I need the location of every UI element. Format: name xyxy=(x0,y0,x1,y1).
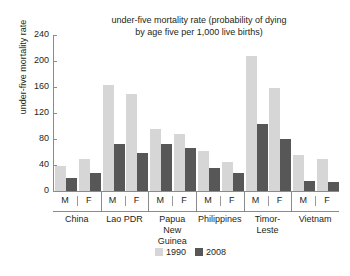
legend-label-1990: 1990 xyxy=(166,247,186,257)
legend-label-2008: 2008 xyxy=(206,247,226,257)
bar-2008-china-f xyxy=(90,173,101,191)
y-axis-label: under-five mortality rate xyxy=(18,0,28,142)
bar-2008-papua-new-guinea-m xyxy=(161,144,172,191)
country-label-line-1: Papua xyxy=(148,214,196,225)
chart-title-line-1: under-five mortality rate (probability o… xyxy=(60,14,338,26)
x-axis-sex-divider xyxy=(268,196,269,206)
chart-container: under-five mortality rate (probability o… xyxy=(0,0,350,276)
x-axis-sex-label: F xyxy=(221,195,243,205)
legend-swatch-1990 xyxy=(155,248,163,256)
y-axis-tick-label: 0 xyxy=(23,185,49,195)
bar-2008-philippines-f xyxy=(233,173,244,191)
bar-2008-papua-new-guinea-f xyxy=(185,148,196,191)
x-axis-underline xyxy=(53,211,339,212)
bar-1990-lao-pdr-m xyxy=(103,85,114,191)
y-axis-tick-label: 120 xyxy=(23,107,49,117)
bar-1990-timor-leste-m xyxy=(246,56,257,191)
bar-2008-vietnam-m xyxy=(304,181,315,191)
plot-area xyxy=(54,35,338,191)
x-axis-sex-divider xyxy=(125,196,126,206)
x-axis-sex-label: M xyxy=(197,195,219,205)
y-axis-tick-label: 40 xyxy=(23,159,49,169)
country-label-line-2: Leste xyxy=(244,225,292,236)
x-axis-sex-divider xyxy=(315,196,316,206)
x-axis-sex-label: M xyxy=(245,195,267,205)
chart-legend: 19902008 xyxy=(155,247,226,257)
y-axis-tick-label: 240 xyxy=(23,29,49,39)
country-label-china: China xyxy=(53,214,101,225)
country-label-line-1: China xyxy=(53,214,101,225)
x-axis-group-divider xyxy=(196,192,197,211)
x-axis-sex-label: M xyxy=(54,195,76,205)
x-axis-sex-label: F xyxy=(316,195,338,205)
country-label-timor-leste: Timor-Leste xyxy=(244,214,292,236)
country-label-line-1: Vietnam xyxy=(291,214,339,225)
x-axis-sex-label: M xyxy=(149,195,171,205)
bar-1990-papua-new-guinea-m xyxy=(150,129,161,191)
bar-2008-timor-leste-f xyxy=(280,139,291,191)
country-label-line-1: Timor- xyxy=(244,214,292,225)
legend-swatch-2008 xyxy=(195,248,203,256)
country-label-line-1: Lao PDR xyxy=(101,214,149,225)
bar-1990-vietnam-f xyxy=(317,159,328,192)
x-axis-group-divider xyxy=(148,192,149,211)
y-axis-tick-label: 80 xyxy=(23,133,49,143)
legend-item-2008: 2008 xyxy=(195,247,226,257)
bar-1990-china-m xyxy=(55,166,66,191)
bar-1990-philippines-f xyxy=(222,162,233,191)
x-axis-group-divider xyxy=(101,192,102,211)
bar-2008-lao-pdr-m xyxy=(114,144,125,191)
x-axis-group-divider xyxy=(291,192,292,211)
legend-item-1990: 1990 xyxy=(155,247,186,257)
bar-1990-lao-pdr-f xyxy=(126,94,137,192)
x-axis-sex-divider xyxy=(77,196,78,206)
x-axis-sex-labels: MFMFMFMFMFMF xyxy=(53,192,339,211)
bar-1990-papua-new-guinea-f xyxy=(174,134,185,191)
bar-1990-china-f xyxy=(79,159,90,192)
y-axis-tick-label: 160 xyxy=(23,81,49,91)
country-label-papua-new-guinea: PapuaNew Guinea xyxy=(148,214,196,247)
bar-1990-philippines-m xyxy=(198,151,209,191)
x-axis-sex-label: F xyxy=(78,195,100,205)
bar-1990-vietnam-m xyxy=(293,155,304,191)
y-axis-tick-label: 200 xyxy=(23,55,49,65)
x-axis-sex-label: F xyxy=(268,195,290,205)
x-axis-sex-label: M xyxy=(102,195,124,205)
country-label-philippines: Philippines xyxy=(196,214,244,225)
x-axis-sex-divider xyxy=(172,196,173,206)
x-axis-sex-label: F xyxy=(125,195,147,205)
bar-1990-timor-leste-f xyxy=(269,88,280,191)
x-axis-sex-label: F xyxy=(173,195,195,205)
bar-2008-vietnam-f xyxy=(328,182,339,191)
bar-2008-lao-pdr-f xyxy=(137,153,148,191)
bar-2008-timor-leste-m xyxy=(257,124,268,191)
x-axis-group-divider xyxy=(244,192,245,211)
bar-2008-china-m xyxy=(66,178,77,191)
bar-2008-philippines-m xyxy=(209,168,220,191)
country-label-lao-pdr: Lao PDR xyxy=(101,214,149,225)
x-axis-sex-label: M xyxy=(292,195,314,205)
country-label-vietnam: Vietnam xyxy=(291,214,339,225)
country-label-line-2: New Guinea xyxy=(148,225,196,247)
x-axis-sex-divider xyxy=(220,196,221,206)
country-label-line-1: Philippines xyxy=(196,214,244,225)
